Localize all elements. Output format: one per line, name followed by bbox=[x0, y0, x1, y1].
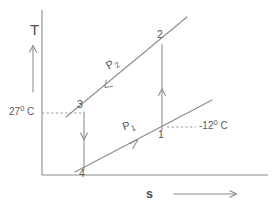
x-axis-arrow-icon bbox=[174, 191, 237, 197]
temperature-low-unit: C bbox=[220, 120, 227, 131]
state-point-label-3: 3 bbox=[77, 99, 83, 110]
pressure-line-p1-arrow-icon bbox=[130, 140, 138, 149]
state-point-label-2: 2 bbox=[157, 29, 163, 40]
state-point-label-4: 4 bbox=[79, 168, 85, 179]
temperature-low-degree: 0 bbox=[213, 118, 217, 127]
y-axis-arrow-icon bbox=[30, 45, 37, 92]
y-axis-label: T bbox=[30, 22, 39, 37]
state-point-label-1: 1 bbox=[158, 129, 164, 140]
process-line-1-2 bbox=[159, 44, 166, 130]
process-line-3-4 bbox=[81, 112, 88, 170]
temperature-high-unit: C bbox=[27, 106, 34, 117]
axes-group bbox=[42, 10, 268, 175]
temperature-high-degree: 0 bbox=[20, 104, 24, 113]
pressure-line-p2 bbox=[66, 17, 187, 117]
pressure-line-p1 bbox=[75, 100, 212, 172]
temperature-label-high: 270 C bbox=[9, 107, 34, 117]
ts-diagram-canvas bbox=[0, 0, 279, 207]
temperature-label-low: -120 C bbox=[199, 121, 228, 131]
x-axis-label: s bbox=[146, 188, 153, 201]
temperature-high-value: 27 bbox=[9, 106, 20, 117]
temperature-low-value: -12 bbox=[199, 120, 213, 131]
ts-diagram-figure: T s 270 C -120 C P2 P1 1 2 3 4 bbox=[0, 0, 279, 207]
